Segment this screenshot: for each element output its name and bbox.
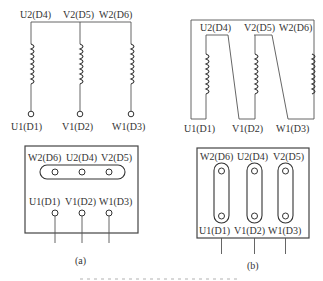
caption-a: (a) — [75, 255, 86, 267]
label-u1: U1(D1) — [199, 225, 230, 237]
coil-v-icon — [255, 54, 258, 94]
wire — [191, 94, 206, 119]
label-w2: W2(D6) — [99, 9, 132, 21]
motor-winding-diagram: U2(D4) V2(D5) W2(D6) U1(D1) V1(D2) W1(D3… — [0, 0, 323, 281]
label-w1: W1(D3) — [268, 225, 301, 237]
label-u1: U1(D1) — [11, 121, 42, 133]
terminal-u1-icon — [28, 111, 34, 117]
terminal-w2-icon — [219, 168, 225, 174]
label-w1: W1(D3) — [112, 121, 145, 133]
label-u2: U2(D4) — [66, 152, 97, 164]
label-v2: V2(D5) — [101, 152, 132, 164]
terminal-v1-icon — [252, 213, 258, 219]
coil-u-icon — [206, 54, 209, 94]
label-v1: V1(D2) — [232, 123, 263, 135]
terminal-v2-icon — [283, 168, 289, 174]
terminal-u1-icon — [52, 210, 58, 216]
terminal-w2-icon — [52, 169, 58, 175]
coil-w-icon — [312, 54, 315, 94]
terminal-w1-icon — [128, 111, 134, 117]
terminal-u2-icon — [252, 168, 258, 174]
terminal-w1-icon — [283, 213, 289, 219]
label-v1: V1(D2) — [65, 196, 96, 208]
label-v2: V2(D5) — [63, 9, 94, 21]
label-v1: V1(D2) — [62, 121, 93, 133]
figure-b-windings: U2(D4) V2(D5) W2(D6) U1(D1) V1(D2) W1(D3… — [184, 20, 315, 135]
label-u1: U1(D1) — [184, 123, 215, 135]
label-u2: U2(D4) — [200, 22, 231, 34]
coil-u-icon — [31, 44, 34, 84]
terminal-v2-icon — [106, 169, 112, 175]
figure-b-terminal-box: W2(D6) U2(D4) V2(D5) U1(D1) V1(D2) W1(D3… — [197, 148, 309, 272]
terminal-u1-icon — [219, 213, 225, 219]
caption-b: (b) — [247, 260, 259, 272]
label-w2: W2(D6) — [279, 22, 312, 34]
label-u2: U2(D4) — [20, 9, 51, 21]
terminal-w1-icon — [106, 210, 112, 216]
label-v1: V1(D2) — [234, 225, 265, 237]
label-v2: V2(D5) — [244, 22, 275, 34]
label-w2: W2(D6) — [28, 152, 61, 164]
label-v2: V2(D5) — [273, 151, 304, 163]
wire — [206, 35, 255, 119]
label-u1: U1(D1) — [29, 196, 60, 208]
coil-w-icon — [131, 44, 134, 84]
terminal-u2-icon — [79, 169, 85, 175]
terminal-v1-icon — [79, 210, 85, 216]
figure-a-windings: U2(D4) V2(D5) W2(D6) U1(D1) V1(D2) W1(D3… — [11, 9, 145, 133]
label-w1: W1(D3) — [99, 196, 132, 208]
coil-v-icon — [80, 44, 83, 84]
figure-a-terminal-box: W2(D6) U2(D4) V2(D5) U1(D1) V1(D2) W1(D3… — [25, 146, 138, 267]
label-w2: W2(D6) — [200, 151, 233, 163]
terminal-v1-icon — [77, 111, 83, 117]
label-u2: U2(D4) — [237, 151, 268, 163]
label-w1: W1(D3) — [276, 123, 309, 135]
